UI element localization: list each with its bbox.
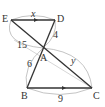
- measure-AB: 6: [27, 58, 32, 69]
- point-label-D: D: [57, 13, 64, 24]
- parallel-arrow-icon: [62, 86, 66, 90]
- point-label-B: B: [21, 90, 28, 101]
- measure-DA: 4: [53, 29, 58, 40]
- point-label-E: E: [2, 13, 8, 24]
- point-label-A: A: [40, 52, 48, 63]
- measure-EA: 15: [17, 39, 27, 50]
- measure-BC: 9: [58, 93, 63, 104]
- measure-AC: y: [70, 55, 76, 66]
- diagram-canvas: E D A B C x 4 15 6 y 9: [0, 0, 105, 107]
- point-label-C: C: [93, 90, 100, 101]
- measure-ED: x: [30, 8, 36, 19]
- geometry-diagram: E D A B C x 4 15 6 y 9: [0, 0, 105, 107]
